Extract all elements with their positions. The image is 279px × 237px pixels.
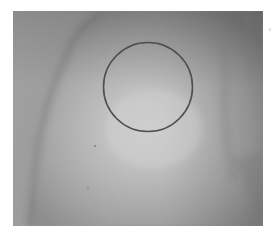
skin-spot [87,187,90,190]
scan-artifact [269,28,271,31]
shoulder-photo [13,11,263,226]
skin-spot [94,145,97,148]
shoulder-photo-graphic [13,11,263,226]
